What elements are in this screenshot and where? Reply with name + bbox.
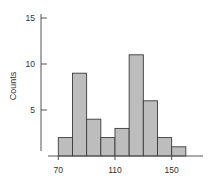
y-axis-label: Counts	[8, 71, 18, 100]
x-tick-label: 150	[165, 165, 179, 175]
histogram-bars	[58, 55, 186, 156]
x-tick-label: 110	[108, 165, 122, 175]
histogram-bar	[157, 138, 171, 156]
y-tick-label: 10	[26, 59, 36, 69]
y-tick-label: 15	[26, 13, 36, 23]
x-ticks: 70110150	[54, 156, 179, 175]
histogram-bar	[72, 73, 86, 156]
histogram-bar	[172, 147, 186, 156]
histogram-bar	[129, 55, 143, 156]
x-tick-label: 70	[54, 165, 64, 175]
histogram-bar	[115, 128, 129, 156]
histogram-bar	[143, 101, 157, 156]
histogram-bar	[101, 138, 115, 156]
histogram-chart: 51015 70110150 Counts	[0, 0, 212, 182]
histogram-bar	[58, 138, 72, 156]
histogram-bar	[87, 119, 101, 156]
y-ticks: 51015	[26, 13, 47, 115]
y-tick-label: 5	[30, 105, 35, 115]
